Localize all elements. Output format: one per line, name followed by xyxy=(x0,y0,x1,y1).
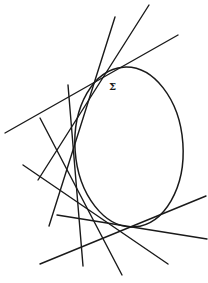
tangent-line-e xyxy=(40,118,122,275)
tangent-line-c xyxy=(49,17,115,226)
tangent-lines-diagram: Σ xyxy=(0,0,208,283)
closed-curve-sigma xyxy=(70,63,189,230)
tangent-lines-group xyxy=(5,5,207,275)
tangent-line-b xyxy=(38,5,149,180)
curve-label: Σ xyxy=(109,81,116,92)
tangent-line-h xyxy=(40,196,206,264)
tangent-line-f xyxy=(23,165,168,264)
tangent-line-a xyxy=(5,35,178,133)
